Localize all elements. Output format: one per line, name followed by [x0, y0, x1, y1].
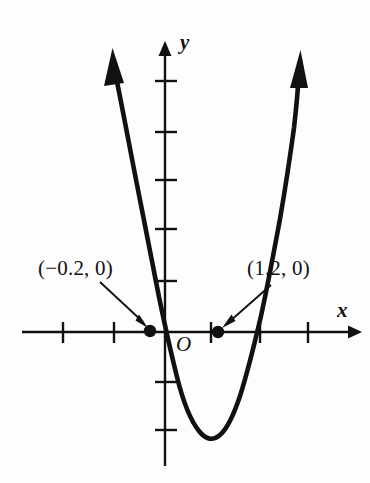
origin-label: O [176, 334, 191, 355]
leader-arrow-left [100, 282, 143, 322]
y-axis-arrowhead [159, 41, 172, 56]
parabola-curve [113, 62, 299, 439]
root-point-left [144, 325, 156, 337]
right-branch-arrowhead [290, 50, 308, 88]
left-branch-arrowhead [104, 48, 124, 86]
leader-arrow-right-head [222, 315, 236, 329]
parabola-figure: y x O (−0.2, 0) (1.2, 0) [0, 0, 370, 483]
root-label-right: (1.2, 0) [247, 258, 310, 279]
x-axis-label: x [337, 300, 348, 321]
x-axis-arrowhead [348, 326, 362, 339]
root-label-left: (−0.2, 0) [38, 258, 113, 279]
graph-canvas [0, 0, 370, 483]
y-axis-label: y [180, 32, 189, 53]
